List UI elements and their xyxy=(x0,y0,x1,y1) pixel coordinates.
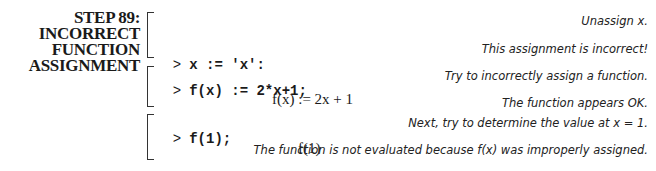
comment-appears-ok: The function appears OK. xyxy=(502,96,648,110)
comment-incorrect: This assignment is incorrect! xyxy=(482,42,648,56)
step-title-line: ASSIGNMENT xyxy=(0,58,140,74)
execution-group-bracket[interactable] xyxy=(147,12,154,58)
prompt-symbol: > xyxy=(173,83,181,99)
execution-group-bracket[interactable] xyxy=(147,66,154,107)
step-title: STEP 89: INCORRECT FUNCTION ASSIGNMENT xyxy=(0,10,140,74)
comment-try-assign: Try to incorrectly assign a function. xyxy=(445,69,648,83)
comment-unassign: Unassign x. xyxy=(581,14,648,28)
output-function: f(x) := 2x + 1 xyxy=(272,91,353,108)
prompt-symbol: > xyxy=(173,131,181,147)
execution-group-bracket[interactable] xyxy=(147,114,154,160)
comment-next-try: Next, try to determine the value at x = … xyxy=(408,116,648,130)
input-line-evaluate[interactable]: >f(1); xyxy=(156,115,231,147)
input-text[interactable]: f(1); xyxy=(189,131,231,147)
comment-not-evaluated: The function is not evaluated because f(… xyxy=(254,143,648,157)
